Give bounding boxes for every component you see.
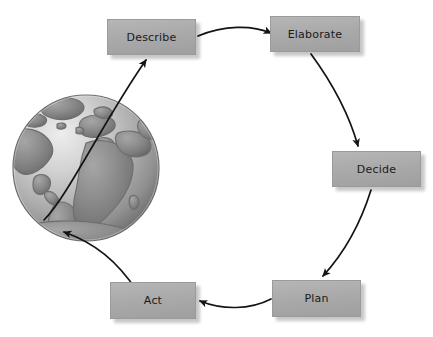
arrow-decide-to-plan	[323, 190, 371, 276]
node-plan[interactable]: Plan	[272, 280, 361, 317]
node-elaborate[interactable]: Elaborate	[270, 16, 360, 52]
node-act[interactable]: Act	[110, 282, 196, 319]
node-decide[interactable]: Decide	[332, 151, 421, 187]
node-decide-label: Decide	[357, 163, 396, 176]
earth-globe-icon	[11, 95, 164, 254]
arrow-describe-to-elaborate	[198, 27, 271, 36]
node-elaborate-label: Elaborate	[288, 28, 343, 41]
cycle-diagram: Describe Elaborate Decide Plan Act	[0, 0, 433, 337]
node-act-label: Act	[144, 294, 162, 307]
node-describe[interactable]: Describe	[107, 19, 196, 55]
arrow-plan-to-act	[200, 299, 271, 308]
arrow-elaborate-to-decide	[311, 54, 358, 146]
node-describe-label: Describe	[127, 31, 177, 44]
node-plan-label: Plan	[304, 292, 328, 305]
